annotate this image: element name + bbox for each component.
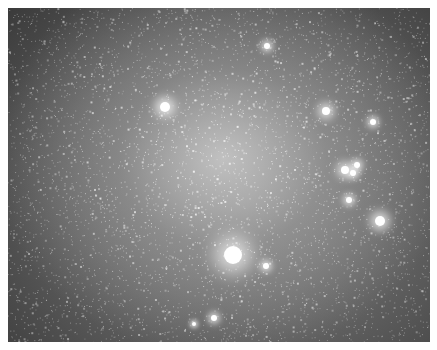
- faint-stars-layer: [8, 8, 430, 342]
- star-field-photo: [8, 8, 430, 342]
- bright-star: [263, 263, 269, 269]
- bright-star: [370, 119, 376, 125]
- bright-star: [375, 216, 385, 226]
- bright-star: [224, 246, 242, 264]
- bright-star: [211, 315, 217, 321]
- bright-star: [350, 170, 356, 176]
- bright-star: [160, 102, 170, 112]
- bright-star: [322, 107, 330, 115]
- bright-star: [192, 322, 196, 326]
- bright-star: [346, 197, 352, 203]
- bright-star: [354, 162, 360, 168]
- bright-star: [341, 166, 349, 174]
- bright-star: [264, 43, 270, 49]
